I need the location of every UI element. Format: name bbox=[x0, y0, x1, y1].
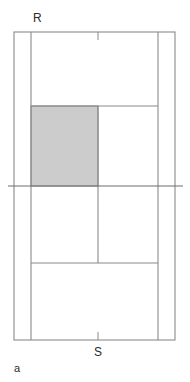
label-receiver-R: R bbox=[33, 11, 42, 25]
label-server-S: S bbox=[94, 345, 102, 359]
figure-background bbox=[0, 0, 190, 382]
panel-label-a: a bbox=[14, 362, 21, 374]
tennis-court-figure: R S a bbox=[0, 0, 190, 382]
court-diagram-svg: R S a bbox=[0, 0, 190, 382]
highlighted-service-box bbox=[31, 106, 98, 186]
